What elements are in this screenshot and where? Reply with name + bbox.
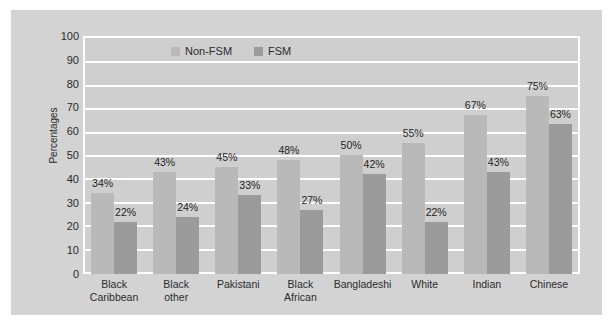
bar[interactable]: 55% (402, 143, 425, 274)
bar-group: 75%63% (518, 36, 580, 274)
bar-slot: 67% (464, 36, 487, 274)
x-axis-category-label: Black other (145, 278, 207, 304)
bar-slot: 42% (363, 36, 386, 274)
legend-label: FSM (268, 46, 291, 57)
bar-group: 45%33% (207, 36, 269, 274)
y-axis-tick-label: 20 (45, 221, 79, 232)
x-axis-labels: Black CaribbeanBlack otherPakistaniBlack… (83, 278, 580, 304)
bar[interactable]: 42% (363, 174, 386, 274)
y-axis-tick-label: 80 (45, 78, 79, 89)
bar-slot: 34% (91, 36, 114, 274)
chart-figure: Percentages 1009080706050403020100 Non-F… (11, 10, 602, 315)
bar[interactable]: 22% (425, 222, 448, 274)
bar-slot: 43% (487, 36, 510, 274)
bar-slot: 50% (340, 36, 363, 274)
bar-value-label: 24% (177, 202, 198, 213)
bar[interactable]: 63% (549, 124, 572, 274)
x-axis-category-label: Indian (456, 278, 518, 304)
y-axis-tick-label: 70 (45, 102, 79, 113)
bar[interactable]: 43% (153, 172, 176, 274)
bar[interactable]: 43% (487, 172, 510, 274)
bar[interactable]: 50% (340, 155, 363, 274)
bar[interactable]: 45% (215, 167, 238, 274)
bar-slot: 45% (215, 36, 238, 274)
bar-slot: 43% (153, 36, 176, 274)
legend-entry-fsm[interactable]: FSM (254, 46, 291, 57)
bar-value-label: 45% (216, 152, 237, 163)
bar-slot: 33% (238, 36, 261, 274)
legend-label: Non-FSM (185, 46, 232, 57)
bar-slot: 48% (277, 36, 300, 274)
bar-value-label: 48% (278, 145, 299, 156)
bar[interactable]: 33% (238, 195, 261, 274)
y-axis-tick-label: 30 (45, 197, 79, 208)
bar-value-label: 67% (465, 100, 486, 111)
bar-slot: 22% (114, 36, 137, 274)
y-axis-tick-label: 40 (45, 173, 79, 184)
bar-slot: 55% (402, 36, 425, 274)
bar-slot: 27% (300, 36, 323, 274)
bar-group: 55%22% (394, 36, 456, 274)
y-axis-ticks: 1009080706050403020100 (39, 36, 79, 274)
bar-value-label: 42% (364, 159, 385, 170)
bar-value-label: 43% (488, 157, 509, 168)
legend-swatch-icon (171, 47, 180, 56)
x-axis-category-label: Chinese (518, 278, 580, 304)
chart-legend: Non-FSMFSM (171, 46, 291, 57)
bar-value-label: 43% (154, 157, 175, 168)
x-axis-category-label: Black African (269, 278, 331, 304)
y-axis-tick-label: 50 (45, 150, 79, 161)
legend-swatch-icon (254, 47, 263, 56)
bar-value-label: 63% (550, 109, 571, 120)
bar-slot: 63% (549, 36, 572, 274)
bar[interactable]: 75% (526, 96, 549, 275)
bar[interactable]: 48% (277, 160, 300, 274)
y-axis-tick-label: 90 (45, 54, 79, 65)
bar-value-label: 75% (527, 81, 548, 92)
bar-value-label: 55% (403, 128, 424, 139)
bar-group: 48%27% (269, 36, 331, 274)
y-axis-tick-label: 10 (45, 245, 79, 256)
y-axis-tick-label: 100 (45, 31, 79, 42)
y-axis-tick-label: 0 (45, 269, 79, 280)
bars-layer: 34%22%43%24%45%33%48%27%50%42%55%22%67%4… (83, 36, 580, 274)
bar[interactable]: 67% (464, 115, 487, 274)
bar-group: 34%22% (83, 36, 145, 274)
bar-group: 50%42% (332, 36, 394, 274)
bar-value-label: 50% (341, 140, 362, 151)
bar-slot: 22% (425, 36, 448, 274)
bar-slot: 75% (526, 36, 549, 274)
legend-entry-non-fsm[interactable]: Non-FSM (171, 46, 232, 57)
bar-value-label: 22% (115, 207, 136, 218)
x-axis-category-label: Black Caribbean (83, 278, 145, 304)
bar[interactable]: 34% (91, 193, 114, 274)
bar-value-label: 22% (426, 207, 447, 218)
bar[interactable]: 22% (114, 222, 137, 274)
bar-value-label: 27% (301, 195, 322, 206)
x-axis-category-label: Bangladeshi (332, 278, 394, 304)
x-axis-category-label: Pakistani (207, 278, 269, 304)
y-axis-tick-label: 60 (45, 126, 79, 137)
bar[interactable]: 27% (300, 210, 323, 274)
bar-group: 43%24% (145, 36, 207, 274)
bar-value-label: 33% (239, 180, 260, 191)
bar-slot: 24% (176, 36, 199, 274)
bar[interactable]: 24% (176, 217, 199, 274)
x-axis-category-label: White (394, 278, 456, 304)
bar-group: 67%43% (456, 36, 518, 274)
bar-value-label: 34% (92, 178, 113, 189)
